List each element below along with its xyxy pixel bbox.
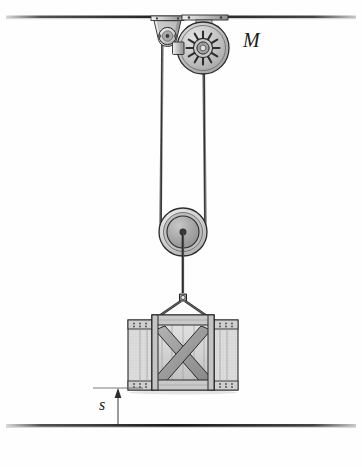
crate-right-panel: [214, 320, 238, 390]
hoist-rope: [182, 233, 183, 293]
figure-canvas: [0, 0, 362, 467]
motor-pulley[interactable]: [173, 15, 230, 74]
ground-line: [6, 424, 356, 428]
physics-figure: M s: [0, 0, 362, 467]
crate-center-face: [152, 315, 214, 390]
distance-label: s: [99, 396, 105, 414]
lower-pulley: [159, 208, 218, 258]
crate-left-panel: [128, 320, 152, 390]
motor-label: M: [243, 29, 260, 52]
crate: [128, 315, 238, 395]
